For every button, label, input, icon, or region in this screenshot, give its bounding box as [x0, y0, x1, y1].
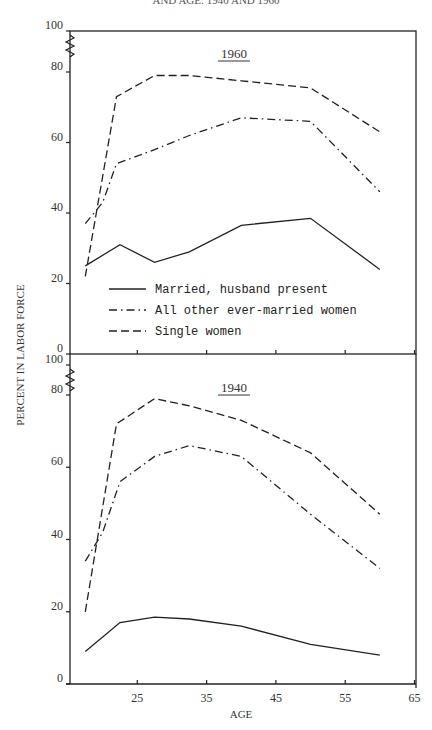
y-tick-label: 40 [51, 200, 63, 214]
x-tick-label: 45 [270, 691, 282, 705]
legend-item-other-married: All other ever-married women [155, 304, 357, 318]
y-tick-label: 40 [51, 527, 63, 541]
axis-ticks: 0204060801000204060801002535455565 [45, 18, 421, 705]
y-tick-label: 0 [57, 671, 63, 685]
labor-force-chart: AND AGE: 1940 AND 1960 1960 Married, hus… [0, 0, 432, 730]
series-line-dashed-1940 [85, 399, 380, 612]
x-tick-label: 35 [201, 691, 213, 705]
y-axis-label: PERCENT IN LABOR FORCE [14, 284, 26, 426]
x-tick-label: 25 [131, 691, 143, 705]
y-tick-label: 100 [45, 352, 63, 366]
panel-1940: 1940 [66, 354, 416, 688]
x-tick-label: 65 [409, 691, 421, 705]
y-tick-label: 80 [51, 59, 63, 73]
x-axis-label: AGE [230, 708, 253, 720]
panel-1960: 1960 Married, husband present All other … [70, 31, 416, 354]
series-line-solid-1940 [85, 617, 380, 655]
series-line-dash-dot-1940 [85, 446, 380, 569]
series-line-solid-1960 [85, 218, 380, 269]
y-tick-label: 80 [51, 382, 63, 396]
y-tick-label: 60 [51, 130, 63, 144]
panel-title-1960: 1960 [221, 46, 247, 61]
series-line-dash-dot-1960 [85, 118, 380, 224]
legend-item-married: Married, husband present [155, 283, 328, 297]
series-line-dashed-1960 [85, 76, 380, 277]
x-tick-label: 55 [339, 691, 351, 705]
figure-caption-partial: AND AGE: 1940 AND 1960 [152, 0, 280, 6]
legend-item-single: Single women [155, 325, 241, 339]
legend: Married, husband present All other ever-… [109, 283, 357, 339]
y-tick-label: 100 [45, 18, 63, 32]
y-tick-label: 20 [51, 599, 63, 613]
y-tick-label: 60 [51, 454, 63, 468]
y-tick-label: 20 [51, 271, 63, 285]
panel-title-1940: 1940 [221, 380, 247, 395]
